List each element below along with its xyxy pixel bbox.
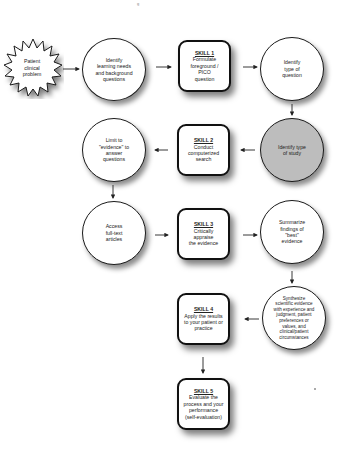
stray-mark xyxy=(314,388,316,390)
flow-arrows xyxy=(0,0,342,457)
